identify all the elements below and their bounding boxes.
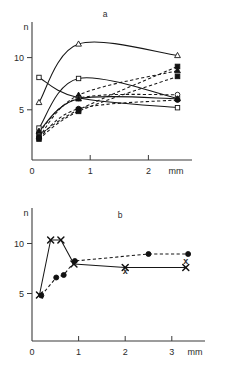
chart-panel-b: 10 5 0 1 2 3 n mm b xx xyxy=(0,186,237,376)
figure-container: 10 5 0 1 2 n mm a xyxy=(0,0,237,376)
data-point-b-1-2 xyxy=(61,273,66,278)
x-axis-label-b: mm xyxy=(188,347,203,357)
x-tick-label-b-1: 1 xyxy=(76,347,81,357)
y-axis-label-b: n xyxy=(23,208,28,218)
panel-b-svg: 10 5 0 1 2 3 n mm b xx xyxy=(0,186,237,376)
x-tick-label-a-0: 0 xyxy=(29,166,34,176)
x-tick-label-b-3: 3 xyxy=(169,347,174,357)
data-point-a-5-2 xyxy=(175,74,180,79)
y-tick-label-a-5: 5 xyxy=(19,105,24,115)
series-line-a-0 xyxy=(39,42,178,102)
data-point-b-1-3 xyxy=(72,259,77,264)
data-point-a-0-0 xyxy=(36,99,42,104)
y-tick-label-b-10: 10 xyxy=(14,239,24,249)
panel-b-annotations-group: xx xyxy=(123,256,189,276)
panel-a-markers-group xyxy=(36,41,180,141)
data-point-a-7-1 xyxy=(76,106,81,111)
data-point-b-1-4 xyxy=(146,252,151,257)
series-line-b-0 xyxy=(39,240,185,295)
x-tick-label-b-2: 2 xyxy=(123,347,128,357)
panel-a-svg: 10 5 0 1 2 n mm a xyxy=(0,0,237,190)
data-point-a-1-2 xyxy=(175,106,179,110)
panel-b-series-group xyxy=(39,240,188,296)
data-point-b-1-1 xyxy=(54,275,59,280)
data-point-b-1-0 xyxy=(39,293,44,298)
chart-panel-a: 10 5 0 1 2 n mm a xyxy=(0,0,237,190)
x-tick-label-a-1: 1 xyxy=(88,166,93,176)
series-line-a-3 xyxy=(39,66,178,135)
data-point-a-7-0 xyxy=(36,135,41,140)
x-axis-label-a: mm xyxy=(169,166,184,176)
x-tick-label-b-0: 0 xyxy=(29,347,34,357)
y-tick-label-b-5: 5 xyxy=(19,289,24,299)
y-tick-label-a-10: 10 xyxy=(14,53,24,63)
panel-label-b: b xyxy=(118,210,123,220)
x-annotation-right: x xyxy=(183,256,188,266)
panel-a-series-group xyxy=(39,42,178,139)
data-point-a-2-1 xyxy=(76,76,80,80)
data-point-a-1-0 xyxy=(37,75,41,79)
panel-label-a: a xyxy=(103,9,108,19)
y-axis-label-a: n xyxy=(23,22,28,32)
x-tick-label-a-2: 2 xyxy=(146,166,151,176)
x-annotation-mid: x xyxy=(123,266,128,276)
